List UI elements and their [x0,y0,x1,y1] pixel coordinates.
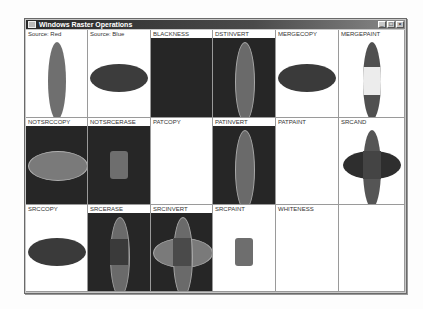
white-fill [276,213,338,291]
cell-dstinvert: DSTINVERT [213,30,276,118]
cell-label: SRCINVERT [151,205,212,213]
cell-label: SRCAND [339,118,404,126]
cell-label: BLACKNESS [151,30,212,38]
window-title: Windows Raster Operations [39,20,132,29]
cell-label: MERGECOPY [276,30,338,38]
close-button[interactable]: × [396,21,404,28]
cell-patpaint: PATPAINT [276,118,339,205]
cell-mergecopy: MERGECOPY [276,30,339,118]
blue-horizontal-ellipse [90,64,148,92]
cell-label: PATINVERT [213,118,275,126]
cell-notsrcerase: NOTSRCERASE [88,118,151,205]
minimize-button[interactable]: _ [378,21,386,28]
cell-label: SRCCOPY [26,205,87,213]
cell-empty [339,205,405,292]
cell-whiteness: WHITENESS [276,205,339,292]
raster-operations-window: Windows Raster Operations _ □ × Source: … [24,18,407,294]
cell-source-red: Source: Red [26,30,88,118]
cell-srcand: SRCAND [339,118,405,205]
cell-blackness: BLACKNESS [151,30,213,118]
overlap-region [110,239,128,265]
cell-label: NOTSRCCOPY [26,118,87,126]
red-vertical-ellipse [48,42,66,118]
horizontal-ellipse [28,151,88,181]
cell-patinvert: PATINVERT [213,118,276,205]
horizontal-ellipse [28,238,86,266]
light-band [363,67,381,95]
cell-label: DSTINVERT [213,30,275,38]
cell-label [339,205,404,213]
cell-srcpaint: SRCPAINT [213,205,276,292]
black-fill [151,38,212,117]
cell-srcinvert: SRCINVERT [151,205,213,292]
cell-label: MERGEPAINT [339,30,404,38]
vertical-ellipse [363,42,381,118]
cell-mergepaint: MERGEPAINT [339,30,405,118]
cell-patcopy: PATCOPY [151,118,213,205]
cell-srcerase: SRCERASE [88,205,151,292]
cell-label: SRCERASE [88,205,150,213]
cell-source-blue: Source: Blue [88,30,151,118]
white-fill [151,126,212,204]
cell-notsrccopy: NOTSRCCOPY [26,118,88,205]
cell-label: PATPAINT [276,118,338,126]
client-area: Source: Red Source: Blue BLACKNESS DSTIN… [26,30,405,292]
cell-label: PATCOPY [151,118,212,126]
center-rectangle [235,238,253,266]
vertical-ellipse [235,130,255,205]
center-rectangle [110,151,128,179]
maximize-button[interactable]: □ [387,21,395,28]
vertical-ellipse [235,42,255,118]
white-fill [276,126,338,204]
overlap-region [363,151,381,179]
cell-label: SRCPAINT [213,205,275,213]
window-menu-icon[interactable] [28,21,36,28]
horizontal-ellipse [278,64,336,92]
overlap-region [173,238,191,266]
cell-label: NOTSRCERASE [88,118,150,126]
cell-srccopy: SRCCOPY [26,205,88,292]
cell-label: Source: Red [26,30,87,38]
cell-label: Source: Blue [88,30,150,38]
cell-label: WHITENESS [276,205,338,213]
title-bar[interactable]: Windows Raster Operations _ □ × [26,20,405,29]
raster-op-grid: Source: Red Source: Blue BLACKNESS DSTIN… [26,30,405,292]
